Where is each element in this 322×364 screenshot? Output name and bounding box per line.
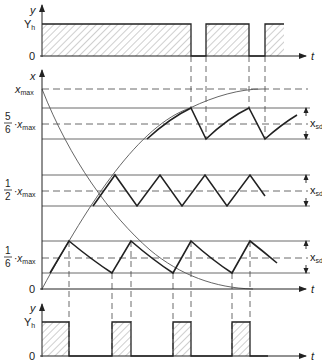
svg-text:·xmax: ·xmax <box>14 119 36 131</box>
bottom-pulses <box>42 322 268 356</box>
svg-text:1: 1 <box>5 245 11 256</box>
top-output-panel: y Yh 0 t <box>24 4 315 62</box>
svg-text:·xmax: ·xmax <box>14 186 36 198</box>
lower-band-oscillation <box>50 241 277 273</box>
bottom-zero-label: 0 <box>29 350 35 362</box>
top-yh-label: Yh <box>24 18 35 31</box>
svg-text:·xmax: ·xmax <box>14 253 36 265</box>
xsd-label-middle: xsd <box>310 184 322 197</box>
two-position-control-diagram: y Yh 0 t <box>0 0 322 364</box>
top-pulses <box>42 24 284 56</box>
svg-text:1: 1 <box>5 178 11 189</box>
svg-text:6: 6 <box>5 258 11 269</box>
bottom-output-panel: y Yh 0 t <box>24 302 315 362</box>
discharging-curve <box>42 89 253 289</box>
middle-x-panel: xsd xsd xsd x xmax 5 6 ·xmax 1 2 ·xmax 1… <box>4 56 322 356</box>
xmax-label: xmax <box>14 83 34 96</box>
middle-t-label: t <box>311 283 315 295</box>
top-guides <box>191 56 265 139</box>
svg-text:6: 6 <box>5 124 11 135</box>
top-t-label: t <box>311 50 315 62</box>
top-y-label: y <box>29 4 37 16</box>
x-label: x <box>29 70 36 82</box>
label-five-sixths: 5 6 ·xmax <box>4 111 36 135</box>
middle-band-oscillation <box>93 175 265 206</box>
bottom-y-label: y <box>29 302 37 314</box>
xsd-label-upper: xsd <box>310 117 322 130</box>
label-one-half: 1 2 ·xmax <box>4 178 36 202</box>
xsd-label-lower: xsd <box>310 251 322 264</box>
svg-text:5: 5 <box>5 111 11 122</box>
svg-text:2: 2 <box>5 191 11 202</box>
upper-band-oscillation <box>147 108 297 139</box>
bottom-t-label: t <box>311 350 315 362</box>
top-zero-label: 0 <box>29 50 35 62</box>
middle-zero-label: 0 <box>29 283 35 295</box>
label-one-sixth: 1 6 ·xmax <box>4 245 36 269</box>
bottom-yh-label: Yh <box>24 316 35 329</box>
